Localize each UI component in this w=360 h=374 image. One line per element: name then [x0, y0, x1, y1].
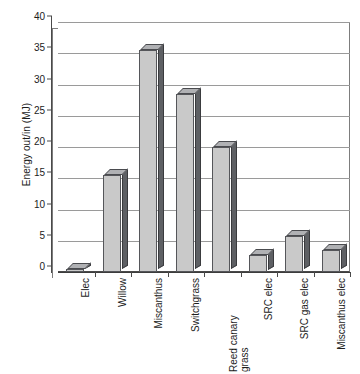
y-tick-label-35: 35 [34, 42, 45, 53]
x-axis-label-miscanthus: Miscanthus [153, 278, 164, 329]
x-tick-mark [95, 272, 96, 277]
bar[interactable] [139, 50, 157, 272]
x-axis-label-line: Switchgrass [190, 278, 201, 332]
plot-area: 0510152025303540 [58, 22, 350, 272]
bar[interactable] [103, 175, 121, 272]
y-axis-title: Energy out/in (MJ) [21, 65, 32, 225]
x-tick-mark [168, 272, 169, 277]
x-tick-mark [241, 272, 242, 277]
bar-chart-figure: Energy out/in (MJ) 0510152025303540 Elec… [0, 0, 360, 374]
y-tick-mark-5 [47, 234, 52, 235]
bar[interactable] [66, 269, 84, 272]
y-tick-label-20: 20 [34, 136, 45, 147]
y-tick-label-0: 0 [39, 261, 45, 272]
bar-side-face [304, 230, 310, 269]
y-tick-mark-35 [47, 47, 52, 48]
x-axis-label-line: Willow [117, 278, 128, 307]
x-axis-label-line: Miscanthus [153, 278, 164, 329]
y-tick-mark-40 [47, 16, 52, 17]
bar[interactable] [212, 147, 230, 272]
x-tick-mark [277, 272, 278, 277]
x-axis-label-reed-canary-grass: Reed canarygrass [228, 278, 250, 372]
bar-slot [212, 22, 230, 272]
bar[interactable] [285, 236, 303, 272]
bar-slot [176, 22, 194, 272]
x-axis-label-line: Elec [80, 278, 91, 297]
x-tick-mark [131, 272, 132, 277]
bar[interactable] [176, 94, 194, 272]
y-tick-mark-0 [47, 266, 52, 267]
y-tick-mark-15 [47, 172, 52, 173]
plot-depth-top-edge [52, 28, 58, 29]
y-tick-label-5: 5 [39, 229, 45, 240]
y-tick-label-25: 25 [34, 104, 45, 115]
y-tick-label-10: 10 [34, 198, 45, 209]
x-tick-mark [204, 272, 205, 277]
bar[interactable] [322, 250, 340, 272]
x-axis-labels: ElecWillowMiscanthusSwitchgrassReed cana… [58, 278, 350, 374]
x-axis-label-willow: Willow [117, 278, 128, 307]
x-axis-label-switchgrass: Switchgrass [190, 278, 201, 332]
x-axis-label-src-elec: SRC elec [263, 278, 274, 320]
x-axis-label-line: Miscanthus elec [336, 278, 347, 350]
bar[interactable] [249, 255, 267, 273]
x-axis-label-miscanthus-elec: Miscanthus elec [336, 278, 347, 350]
y-tick-mark-30 [47, 78, 52, 79]
bar-slot [66, 22, 84, 272]
y-tick-label-30: 30 [34, 73, 45, 84]
y-tick-label-15: 15 [34, 167, 45, 178]
bar-slot [139, 22, 157, 272]
bar-slot [285, 22, 303, 272]
y-tick-mark-25 [47, 109, 52, 110]
x-axis-label-elec: Elec [80, 278, 91, 297]
bar-slot [103, 22, 121, 272]
y-tick-mark-10 [47, 203, 52, 204]
bar-top-face [67, 263, 91, 269]
bar-side-face [122, 169, 128, 269]
x-axis-label-line: grass [239, 278, 250, 372]
x-axis-label-src-gas-elec: SRC gas elec [299, 278, 310, 339]
y-tick-mark-20 [47, 141, 52, 142]
bar-side-face [231, 141, 237, 269]
bar-side-face [195, 87, 201, 269]
y-tick-label-40: 40 [34, 11, 45, 22]
x-axis-label-line: SRC elec [263, 278, 274, 320]
x-tick-mark [314, 272, 315, 277]
x-axis-label-line: Reed canary [228, 315, 239, 372]
x-tick-mark [350, 272, 351, 277]
bar-slot [249, 22, 267, 272]
bar-side-face [158, 44, 164, 269]
x-axis-label-line: SRC gas elec [299, 278, 310, 339]
bar-slot [322, 22, 340, 272]
